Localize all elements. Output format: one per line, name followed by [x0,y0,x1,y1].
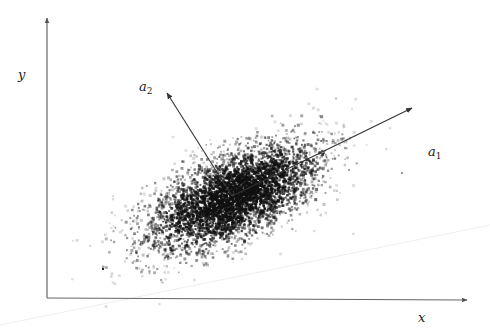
x-axis [47,298,467,300]
a1-label: a1 [428,145,442,161]
plot-canvas [0,0,490,336]
y-axis-label: y [18,68,25,81]
pca-diagram: y x a2 a1 [0,0,490,336]
scatter-cloud [71,88,403,308]
x-axis-label: x [418,311,425,324]
a2-label: a2 [139,80,153,96]
